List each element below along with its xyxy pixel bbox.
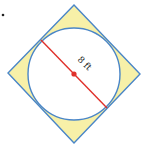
bullet-marker <box>2 14 5 17</box>
diagram-canvas: 8 ft <box>0 0 142 144</box>
center-dot <box>71 71 76 76</box>
